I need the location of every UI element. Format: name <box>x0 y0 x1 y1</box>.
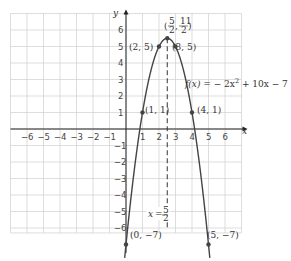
svg-text:−5: −5 <box>114 207 127 217</box>
svg-text:(: ( <box>164 21 168 31</box>
point-label-3-5: (3, 5) <box>172 42 196 52</box>
svg-text:2: 2 <box>169 25 175 35</box>
svg-text:−5: −5 <box>38 132 51 142</box>
svg-text:4: 4 <box>118 58 123 68</box>
svg-text:1: 1 <box>118 108 123 118</box>
svg-text:,: , <box>175 21 178 31</box>
svg-text:5: 5 <box>118 42 123 52</box>
x-axis-label: x <box>242 126 247 136</box>
point-label-0-neg7: (0, −7) <box>130 230 162 240</box>
svg-text:−2: −2 <box>114 157 127 167</box>
svg-text:x=: x= <box>148 209 163 219</box>
svg-text:2: 2 <box>118 91 123 101</box>
svg-text:2: 2 <box>163 213 169 223</box>
svg-text:2: 2 <box>157 132 162 142</box>
point-label-5-neg7: (5, −7) <box>207 230 239 240</box>
y-axis-label: y <box>112 8 119 18</box>
parabola-chart: −6−5−4−3−2−1123456654321−1−2−3−4−5−6 y x… <box>0 0 291 261</box>
svg-text:−3: −3 <box>71 132 84 142</box>
svg-text:−4: −4 <box>54 132 67 142</box>
svg-text:6: 6 <box>118 25 123 35</box>
point-label-4-1: (4, 1) <box>197 105 221 115</box>
svg-text:f(x) = − 2x2 + 10x − 7: f(x) = − 2x2 + 10x − 7 <box>184 77 288 89</box>
svg-text:2: 2 <box>181 25 187 35</box>
svg-text:−4: −4 <box>114 190 127 200</box>
symmetry-label: x= 5 2 <box>146 205 170 223</box>
vertex-label: ( 5 2 , 11 2 ) <box>164 16 192 35</box>
svg-text:5: 5 <box>206 132 211 142</box>
point-label-1-1: (1, 1) <box>145 105 169 115</box>
svg-text:3: 3 <box>118 75 123 85</box>
svg-text:−6: −6 <box>114 223 127 233</box>
svg-text:6: 6 <box>223 132 228 142</box>
svg-text:4: 4 <box>190 132 195 142</box>
svg-text:−6: −6 <box>21 132 34 142</box>
svg-text:−2: −2 <box>87 132 100 142</box>
svg-text:3: 3 <box>173 132 178 142</box>
svg-text:): ) <box>188 21 192 31</box>
svg-text:−3: −3 <box>114 174 127 184</box>
svg-text:1: 1 <box>140 132 145 142</box>
function-label: f(x) = − 2x2 + 10x − 7 <box>184 77 288 89</box>
point-label-2-5: (2, 5) <box>129 42 153 52</box>
svg-text:−1: −1 <box>114 141 127 151</box>
